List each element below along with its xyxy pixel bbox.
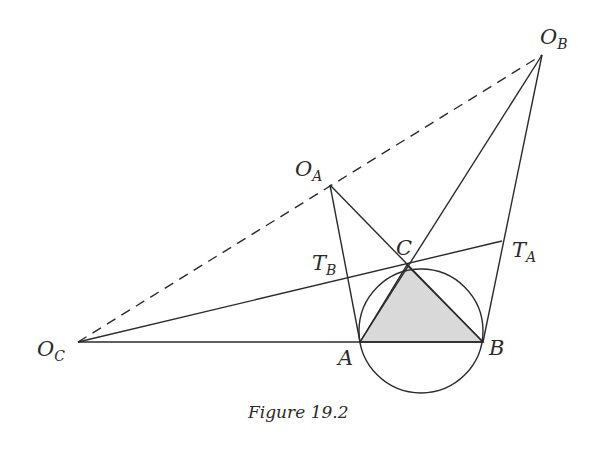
- dashed-line-oc-ob: [78, 55, 542, 342]
- line-ob-a: [360, 55, 542, 342]
- label-ta: TA: [512, 238, 536, 265]
- label-c: C: [396, 236, 412, 260]
- label-b: B: [488, 336, 504, 360]
- label-ob: OB: [540, 25, 568, 52]
- line-ob-b: [483, 55, 542, 342]
- label-oa: OA: [295, 157, 322, 184]
- label-tb: TB: [312, 251, 336, 278]
- triangle-abc: [360, 265, 483, 342]
- label-oc: OC: [37, 337, 65, 364]
- figure-caption: Figure 19.2: [247, 402, 349, 422]
- label-a: A: [336, 346, 353, 370]
- geometry-figure: OC OA OB TB TA C A B Figure 19.2: [0, 0, 604, 449]
